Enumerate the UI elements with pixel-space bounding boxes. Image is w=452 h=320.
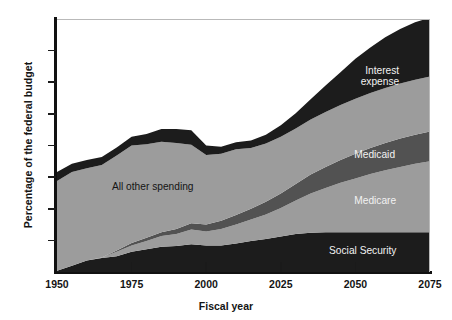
y-tick-15 [48, 176, 56, 178]
y-tick-30 [48, 81, 56, 83]
x-tick-2025 [280, 262, 282, 272]
x-tick-label-1975: 1975 [102, 278, 162, 290]
y-tick-35 [48, 50, 56, 52]
x-tick-2000 [205, 262, 207, 272]
x-tick-label-2000: 2000 [176, 278, 236, 290]
series-label-social-security: Social Security [329, 245, 396, 256]
series-label-all-other-spending: All other spending [112, 181, 194, 192]
series-label-medicaid: Medicaid [354, 149, 395, 160]
x-tick-2050 [355, 262, 357, 272]
x-axis-title: Fiscal year [0, 300, 452, 312]
x-tick-label-2050: 2050 [325, 278, 385, 290]
y-tick-10 [48, 208, 56, 210]
y-tick-20 [48, 145, 56, 147]
y-tick-25 [48, 113, 56, 115]
x-tick-label-2075: 2075 [400, 278, 452, 290]
stacked-area-paths [57, 19, 430, 272]
chart-figure: Percentage of the federal budget All oth… [0, 0, 452, 320]
x-tick-label-2025: 2025 [251, 278, 311, 290]
x-tick-1975 [131, 262, 133, 272]
series-label-medicare: Medicare [354, 195, 396, 206]
y-axis-title: Percentage of the federal budget [22, 25, 34, 265]
series-label-interest-expense: Interestexpense [345, 65, 399, 88]
plot-area: All other spendingInterestexpenseMedicai… [57, 19, 430, 272]
y-tick-5 [48, 240, 56, 242]
x-tick-label-1950: 1950 [27, 278, 87, 290]
